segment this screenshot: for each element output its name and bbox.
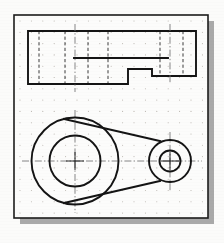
grid-dot: [54, 190, 55, 191]
grid-dot: [145, 167, 146, 168]
grid-dot: [42, 66, 43, 67]
grid-dot: [76, 156, 77, 157]
grid-dot: [42, 179, 43, 180]
grid-dot: [54, 213, 55, 214]
grid-dot: [179, 213, 180, 214]
grid-dot: [111, 77, 112, 78]
grid-dot: [122, 111, 123, 112]
grid-dot: [190, 66, 191, 67]
grid-dot: [65, 179, 66, 180]
grid-dot: [190, 111, 191, 112]
grid-dot: [133, 156, 134, 157]
technical-drawing-svg: [0, 0, 224, 243]
grid-dot: [156, 66, 157, 67]
grid-dot: [31, 54, 32, 55]
grid-dot: [179, 43, 180, 44]
grid-dot: [54, 179, 55, 180]
grid-dot: [145, 156, 146, 157]
grid-dot: [54, 156, 55, 157]
grid-dot: [111, 213, 112, 214]
grid-dot: [190, 43, 191, 44]
grid-dot: [122, 213, 123, 214]
grid-dot: [145, 20, 146, 21]
grid-dot: [202, 111, 203, 112]
grid-dot: [168, 201, 169, 202]
grid-dot: [111, 88, 112, 89]
grid-dot: [88, 133, 89, 134]
grid-dot: [111, 54, 112, 55]
grid-dot: [111, 167, 112, 168]
grid-dot: [19, 167, 20, 168]
grid-dot: [31, 179, 32, 180]
grid-dot: [42, 111, 43, 112]
grid-dot: [19, 122, 20, 123]
grid-dot: [111, 43, 112, 44]
grid-dot: [99, 213, 100, 214]
grid-dot: [202, 145, 203, 146]
grid-dot: [145, 100, 146, 101]
grid-dot: [202, 77, 203, 78]
grid-dot: [179, 20, 180, 21]
grid-dot: [156, 156, 157, 157]
grid-dot: [168, 179, 169, 180]
grid-dot: [133, 88, 134, 89]
grid-dot: [202, 66, 203, 67]
grid-dot: [190, 20, 191, 21]
grid-dot: [76, 77, 77, 78]
grid-dot: [122, 66, 123, 67]
grid-dot: [145, 201, 146, 202]
grid-dot: [19, 201, 20, 202]
grid-dot: [111, 145, 112, 146]
grid-dot: [42, 100, 43, 101]
grid-dot: [179, 145, 180, 146]
grid-dot: [31, 88, 32, 89]
grid-dot: [202, 88, 203, 89]
grid-dot: [76, 213, 77, 214]
grid-dot: [99, 111, 100, 112]
grid-dot: [145, 190, 146, 191]
grid-dot: [19, 190, 20, 191]
grid-dot: [122, 20, 123, 21]
grid-dot: [156, 77, 157, 78]
grid-dot: [76, 111, 77, 112]
grid-dot: [31, 77, 32, 78]
grid-dot: [190, 54, 191, 55]
grid-dot: [133, 54, 134, 55]
grid-dot: [88, 88, 89, 89]
grid-dot: [168, 20, 169, 21]
grid-dot: [31, 145, 32, 146]
grid-dot: [156, 133, 157, 134]
grid-dot: [31, 20, 32, 21]
grid-dot: [145, 43, 146, 44]
grid-dot: [168, 167, 169, 168]
grid-dot: [202, 167, 203, 168]
grid-dot: [76, 54, 77, 55]
grid-dot: [88, 190, 89, 191]
grid-dot: [145, 179, 146, 180]
grid-dot: [145, 145, 146, 146]
grid-dot: [202, 54, 203, 55]
grid-dot: [65, 156, 66, 157]
grid-dot: [54, 88, 55, 89]
grid-dot: [122, 133, 123, 134]
grid-dot: [65, 133, 66, 134]
grid-dot: [111, 179, 112, 180]
grid-dot: [133, 167, 134, 168]
grid-dot: [54, 54, 55, 55]
grid-dot: [133, 122, 134, 123]
grid-dot: [168, 100, 169, 101]
grid-dot: [145, 122, 146, 123]
grid-dot: [133, 111, 134, 112]
grid-dot: [54, 111, 55, 112]
grid-dot: [54, 43, 55, 44]
grid-dot: [122, 122, 123, 123]
grid-dot: [88, 20, 89, 21]
grid-dot: [99, 190, 100, 191]
grid-dot: [99, 179, 100, 180]
grid-dot: [145, 88, 146, 89]
grid-dot: [168, 122, 169, 123]
grid-dot: [99, 88, 100, 89]
grid-dot: [122, 201, 123, 202]
grid-dot: [156, 111, 157, 112]
grid-dot: [65, 145, 66, 146]
